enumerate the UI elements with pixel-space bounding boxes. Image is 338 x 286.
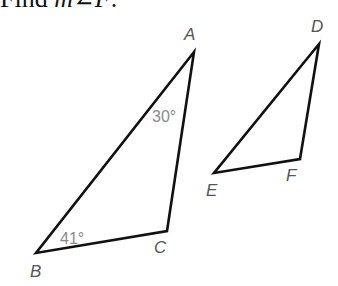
angle-label-a: 30°	[152, 108, 176, 125]
angle-label-b: 41°	[60, 230, 84, 247]
triangle-diagram: A B C 30° 41° D E F	[0, 0, 338, 286]
vertex-label-b: B	[30, 262, 41, 281]
triangle-def	[214, 44, 319, 173]
vertex-label-e: E	[206, 181, 218, 200]
vertex-label-f: F	[286, 166, 298, 185]
vertex-label-a: A	[183, 25, 195, 44]
vertex-label-c: C	[154, 238, 167, 257]
vertex-label-d: D	[311, 17, 323, 36]
triangle-abc	[36, 52, 194, 253]
